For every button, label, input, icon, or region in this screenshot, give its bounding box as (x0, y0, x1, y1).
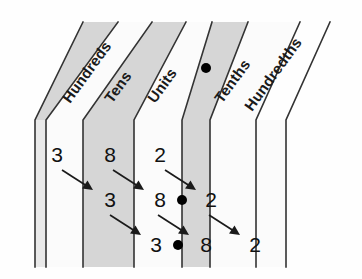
place-value-chart-svg: Hundreds Tens Units Tenths Hundredths 3 … (0, 0, 362, 279)
decimal-point-row3-icon (173, 240, 183, 250)
column-shading-bands (35, 22, 300, 267)
digit-row1-units: 2 (154, 143, 166, 166)
digit-row2-tens: 3 (104, 188, 116, 211)
digit-row3-units: 3 (150, 233, 162, 256)
digit-row3-tenths: 8 (200, 233, 212, 256)
place-value-chart-figure: Hundreds Tens Units Tenths Hundredths 3 … (0, 0, 362, 279)
digit-row3-hundredths: 2 (249, 233, 261, 256)
digit-row2-tenths: 2 (205, 188, 217, 211)
decimal-point-row2-icon (177, 195, 187, 205)
digit-row1-tens: 8 (104, 143, 116, 166)
digit-row2-units: 8 (154, 188, 166, 211)
digit-row1-hundreds: 3 (51, 143, 63, 166)
header-decimal-point-icon (201, 63, 211, 73)
